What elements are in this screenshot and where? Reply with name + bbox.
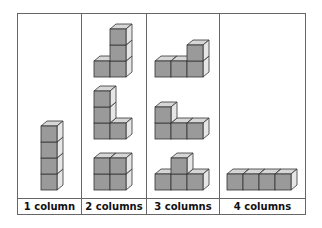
- cube-front-face: [171, 123, 187, 139]
- cube-front-face: [110, 123, 126, 139]
- cube-front-face: [110, 174, 126, 190]
- cube-front-face: [275, 174, 291, 190]
- cube-front-face: [110, 45, 126, 61]
- column-label-3: 3 columns: [147, 199, 219, 214]
- cube-front-face: [110, 61, 126, 77]
- cube-front-face: [41, 174, 57, 190]
- column-label-2: 2 columns: [82, 199, 146, 214]
- cube-diagram: [0, 0, 322, 228]
- cube-front-face: [243, 174, 259, 190]
- cube-front-face: [187, 45, 203, 61]
- cube-front-face: [41, 142, 57, 158]
- cube-front-face: [171, 174, 187, 190]
- cube-front-face: [187, 61, 203, 77]
- cube-front-face: [187, 174, 203, 190]
- diagram-table: 1 column 2 columns 3 columns 4 columns: [0, 0, 322, 228]
- cube-front-face: [259, 174, 275, 190]
- column-label-1: 1 column: [18, 199, 81, 214]
- cube-front-face: [155, 61, 171, 77]
- cube-front-face: [171, 61, 187, 77]
- cube-front-face: [155, 123, 171, 139]
- cube-front-face: [94, 158, 110, 174]
- cube-front-face: [94, 61, 110, 77]
- cube-front-face: [187, 123, 203, 139]
- cube-front-face: [94, 174, 110, 190]
- cube-front-face: [155, 174, 171, 190]
- cube-front-face: [155, 107, 171, 123]
- cube-front-face: [94, 91, 110, 107]
- cube-front-face: [110, 158, 126, 174]
- column-label-4: 4 columns: [220, 199, 305, 214]
- cube-front-face: [41, 126, 57, 142]
- cube-front-face: [227, 174, 243, 190]
- cube-front-face: [110, 29, 126, 45]
- cube-front-face: [94, 123, 110, 139]
- cube-front-face: [171, 158, 187, 174]
- cube-front-face: [41, 158, 57, 174]
- cube-front-face: [94, 107, 110, 123]
